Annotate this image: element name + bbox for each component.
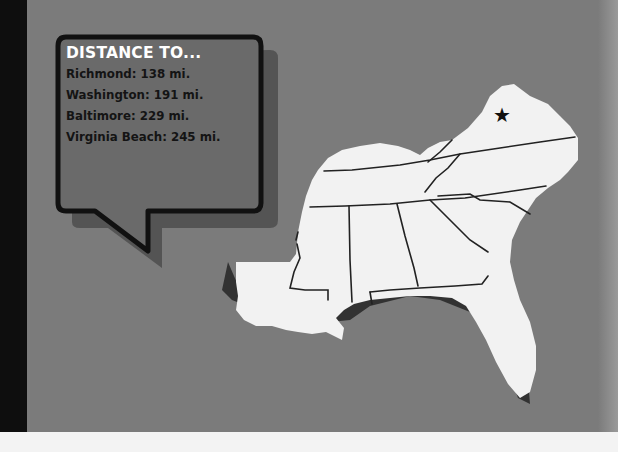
distance-virginia-beach: Virginia Beach: 245 mi. (66, 131, 256, 143)
distance-richmond: Richmond: 138 mi. (66, 68, 256, 80)
distance-baltimore: Baltimore: 229 mi. (66, 110, 256, 122)
distance-washington: Washington: 191 mi. (66, 89, 256, 101)
infographic: ★ DISTANCE TO... Richmond: 138 mi. Washi… (0, 0, 618, 452)
bottom-margin (0, 432, 618, 452)
distance-callout: DISTANCE TO... Richmond: 138 mi. Washing… (66, 44, 256, 152)
star-icon: ★ (493, 103, 511, 127)
callout-title: DISTANCE TO... (66, 44, 256, 62)
